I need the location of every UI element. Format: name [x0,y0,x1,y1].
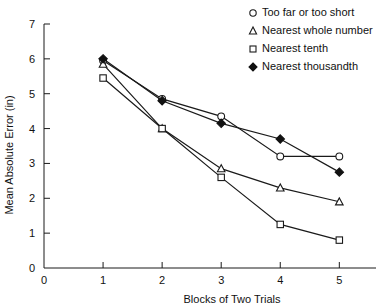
x-axis-title: Blocks of Two Trials [184,293,281,305]
data-point-marker [277,153,284,160]
y-tick-label: 0 [29,262,35,274]
x-tick-label: 5 [336,274,342,286]
data-point-marker [336,237,342,243]
y-tick-label: 4 [29,123,35,135]
y-axis-title: Mean Absolute Error (in) [3,95,15,214]
legend-item: Nearest thousandth [249,60,358,72]
legend-item-label: Nearest whole number [262,24,373,36]
legend-item-label: Nearest thousandth [262,60,358,72]
x-tick-label: 2 [159,274,165,286]
legend-item-label: Too far or too short [262,6,354,18]
y-tick-label: 2 [29,192,35,204]
legend-item: Too far or too short [250,6,355,18]
y-tick-label: 5 [29,88,35,100]
data-point-marker [217,119,225,127]
chart-legend: Too far or too shortNearest whole number… [249,6,373,72]
y-tick-label: 3 [29,157,35,169]
data-point-marker [335,168,343,176]
y-tick-label: 7 [29,18,35,30]
data-series-group [99,55,344,244]
data-point-marker [336,153,343,160]
x-tick-label: 3 [218,274,224,286]
line-chart: 12345670 012345 Too far or too shortNear… [0,0,388,308]
data-point-marker [159,125,165,131]
data-series [100,57,343,160]
legend-item: Nearest whole number [249,24,373,36]
legend-marker-triangle-icon [249,27,256,34]
data-point-marker [277,221,283,227]
x-tick-label: 0 [41,274,47,286]
legend-item-label: Nearest tenth [262,42,328,54]
chart-container: 12345670 012345 Too far or too shortNear… [0,0,388,308]
x-tick-label: 4 [277,274,283,286]
y-tick-label: 6 [29,53,35,65]
legend-item: Nearest tenth [250,42,328,54]
data-point-marker [276,135,284,143]
legend-marker-square-icon [250,46,256,52]
data-point-marker [217,165,225,172]
legend-marker-circle-icon [250,10,256,16]
data-point-marker [100,75,106,81]
y-axis-ticks: 12345670 [29,18,50,274]
data-point-marker [218,174,224,180]
y-tick-label: 1 [29,227,35,239]
x-axis-ticks: 012345 [41,262,342,286]
legend-marker-diamond-icon [249,63,257,71]
x-tick-label: 1 [100,274,106,286]
